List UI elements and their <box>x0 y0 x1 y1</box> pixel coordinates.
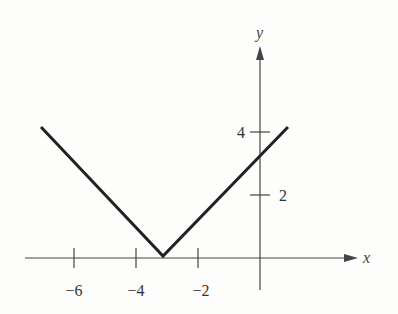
x-axis-arrow-icon <box>344 254 358 262</box>
function-curve <box>41 127 288 256</box>
y-tick-label: 2 <box>279 187 287 204</box>
x-tick-label: −6 <box>65 282 82 299</box>
x-tick-label: −2 <box>192 282 209 299</box>
x-tick-label: −4 <box>127 282 144 299</box>
x-axis-label: x <box>362 249 370 266</box>
chart: −6 −4 −2 4 2 x y <box>0 0 398 314</box>
y-tick-label: 4 <box>237 124 245 141</box>
y-axis-arrow-icon <box>256 46 264 60</box>
y-axis-label: y <box>254 24 264 42</box>
